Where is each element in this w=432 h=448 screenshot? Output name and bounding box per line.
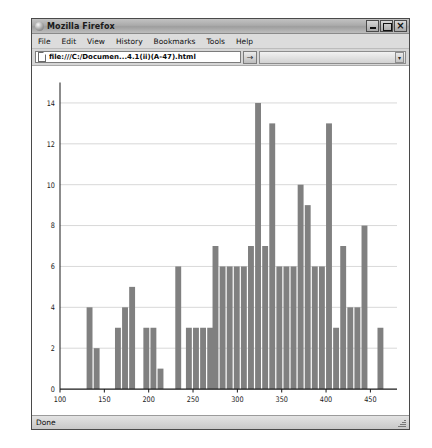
y-axis-tick-label: 8 xyxy=(51,221,56,231)
go-button[interactable]: → xyxy=(243,51,257,64)
histogram-bar xyxy=(227,266,233,389)
x-axis-tick-label: 200 xyxy=(142,394,155,404)
y-axis-tick-label: 2 xyxy=(51,343,55,353)
browser-window: Mozilla Firefox × File Edit View History… xyxy=(31,18,410,430)
histogram-bar xyxy=(241,266,247,389)
menu-bar: File Edit View History Bookmarks Tools H… xyxy=(32,34,409,49)
histogram-bar xyxy=(115,328,121,389)
x-axis-tick-label: 350 xyxy=(276,394,289,404)
y-axis-tick-label: 4 xyxy=(51,303,56,313)
histogram-bar xyxy=(193,328,199,389)
histogram-bar xyxy=(262,246,268,389)
histogram-bar xyxy=(319,266,325,389)
search-bar[interactable]: ▾ xyxy=(259,51,406,64)
histogram-bar xyxy=(362,226,368,389)
x-axis-tick-label: 300 xyxy=(231,394,244,404)
histogram-bar xyxy=(333,328,339,389)
x-axis-tick-label: 150 xyxy=(98,394,111,404)
menu-item-file[interactable]: File xyxy=(38,37,51,46)
histogram-bar xyxy=(122,307,128,389)
histogram-bar xyxy=(347,307,353,389)
chevron-down-icon[interactable]: ▾ xyxy=(395,52,404,63)
menu-item-edit[interactable]: Edit xyxy=(62,37,77,46)
histogram-bar xyxy=(143,328,149,389)
histogram-bar xyxy=(248,246,254,389)
histogram-bar xyxy=(354,307,360,389)
histogram-bar xyxy=(175,266,181,389)
resize-grip-icon[interactable] xyxy=(397,418,407,428)
x-axis-tick-label: 250 xyxy=(187,394,200,404)
histogram-bar xyxy=(158,369,164,389)
histogram-bar xyxy=(129,287,135,389)
histogram-bar xyxy=(87,307,93,389)
histogram-bar xyxy=(276,266,282,389)
x-axis-tick-label: 450 xyxy=(364,394,377,404)
menu-item-help[interactable]: Help xyxy=(236,37,253,46)
histogram-bar xyxy=(220,266,226,389)
histogram-bar xyxy=(186,328,192,389)
status-text: Done xyxy=(34,418,397,427)
histogram-bar xyxy=(377,328,383,389)
url-text: file:///C:/Documen...4.1(ii)(A-47).html xyxy=(49,53,196,61)
histogram-bar xyxy=(207,328,213,389)
histogram-bar xyxy=(340,246,346,389)
y-axis-tick-label: 10 xyxy=(47,180,56,190)
y-axis-tick-label: 6 xyxy=(51,262,56,272)
histogram-bar xyxy=(94,348,100,389)
page-content: 02468101214100150200250300350400450 xyxy=(32,66,409,415)
menu-item-bookmarks[interactable]: Bookmarks xyxy=(154,37,196,46)
address-bar[interactable]: file:///C:/Documen...4.1(ii)(A-47).html xyxy=(35,51,241,63)
title-bar[interactable]: Mozilla Firefox × xyxy=(32,19,409,34)
status-bar: Done xyxy=(32,415,409,429)
minimize-button[interactable] xyxy=(366,20,379,32)
histogram-bar xyxy=(200,328,206,389)
histogram-bar xyxy=(283,266,289,389)
window-controls: × xyxy=(366,20,407,32)
x-axis-tick-label: 400 xyxy=(320,394,333,404)
menu-item-history[interactable]: History xyxy=(116,37,143,46)
histogram-chart: 02468101214100150200250300350400450 xyxy=(32,66,409,415)
window-title: Mozilla Firefox xyxy=(47,22,366,31)
histogram-bar xyxy=(291,266,297,389)
histogram-bar xyxy=(298,185,304,389)
histogram-bar xyxy=(255,103,261,389)
y-axis-tick-label: 12 xyxy=(47,139,55,149)
histogram-bar xyxy=(234,266,240,389)
navigation-toolbar: file:///C:/Documen...4.1(ii)(A-47).html … xyxy=(32,49,409,66)
menu-item-tools[interactable]: Tools xyxy=(207,37,225,46)
histogram-bar xyxy=(305,205,311,389)
maximize-button[interactable] xyxy=(380,20,393,32)
histogram-bar xyxy=(326,123,332,389)
y-axis-tick-label: 14 xyxy=(47,98,56,108)
histogram-bar xyxy=(213,246,219,389)
close-button[interactable]: × xyxy=(394,20,407,32)
firefox-logo-icon xyxy=(35,22,44,31)
page-document-icon xyxy=(38,52,46,62)
x-axis-tick-label: 100 xyxy=(54,394,67,404)
y-axis-tick-label: 0 xyxy=(51,384,56,394)
menu-item-view[interactable]: View xyxy=(87,37,105,46)
histogram-bar xyxy=(150,328,156,389)
histogram-bar xyxy=(312,266,318,389)
histogram-bar xyxy=(269,123,275,389)
